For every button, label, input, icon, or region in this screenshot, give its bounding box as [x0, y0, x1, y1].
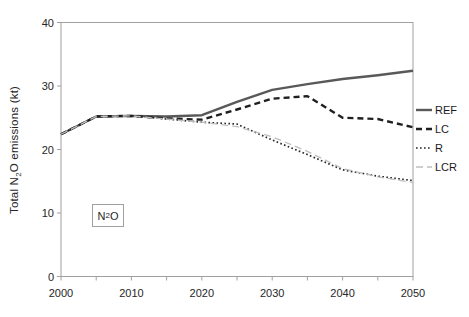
svg-text:2000: 2000 — [49, 287, 73, 299]
legend-line-lc-icon — [416, 126, 432, 132]
legend-label-r: R — [435, 142, 443, 154]
chart-figure: 010203040200020102020203020402050 Total … — [0, 0, 469, 317]
legend-line-lcr-icon — [416, 164, 432, 170]
legend-label-ref: REF — [435, 104, 457, 116]
svg-text:2040: 2040 — [330, 287, 354, 299]
svg-text:0: 0 — [48, 271, 54, 283]
legend-item-lc: LC — [416, 119, 457, 138]
legend-line-ref-icon — [416, 107, 432, 113]
y-axis-title-subscript: 2 — [14, 172, 23, 177]
legend-line-r-icon — [416, 145, 432, 151]
legend-label-lc: LC — [435, 123, 449, 135]
legend-item-ref: REF — [416, 100, 457, 119]
y-axis-title-text: Total N — [8, 177, 20, 214]
y-axis-title: Total N2O emissions (kt) — [8, 86, 20, 214]
svg-text:2010: 2010 — [119, 287, 143, 299]
legend: REF LC R LCR — [416, 100, 457, 176]
svg-text:40: 40 — [42, 17, 54, 29]
svg-text:20: 20 — [42, 144, 54, 156]
svg-text:2030: 2030 — [260, 287, 284, 299]
svg-text:2020: 2020 — [190, 287, 214, 299]
legend-item-lcr: LCR — [416, 157, 457, 176]
gas-label-suffix: O — [110, 210, 119, 222]
legend-label-lcr: LCR — [435, 161, 457, 173]
y-axis-title-suffix: O emissions (kt) — [8, 86, 20, 172]
legend-item-r: R — [416, 138, 457, 157]
plot-area: 010203040200020102020203020402050 — [0, 0, 469, 317]
gas-label-text: N — [98, 210, 106, 222]
svg-text:2050: 2050 — [401, 287, 425, 299]
gas-label-box: N2O — [92, 204, 124, 227]
svg-text:10: 10 — [42, 207, 54, 219]
svg-text:30: 30 — [42, 80, 54, 92]
